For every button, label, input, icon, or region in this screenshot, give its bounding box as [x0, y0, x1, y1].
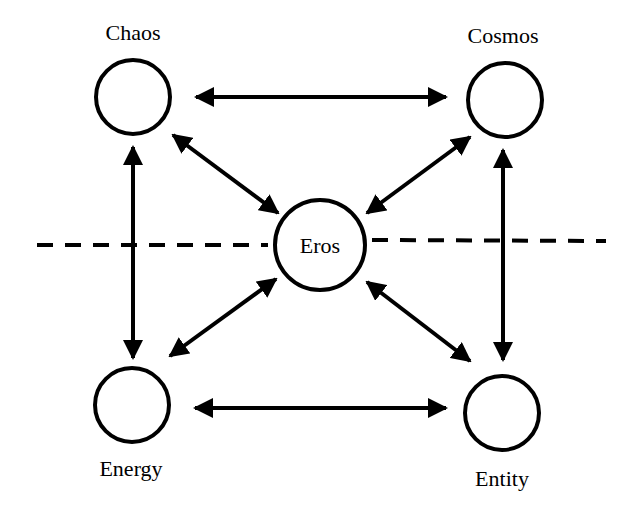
arrow-entity-eros [367, 282, 470, 361]
label-eros: Eros [300, 233, 340, 258]
label-energy: Energy [99, 456, 162, 481]
divider-right [372, 240, 606, 241]
label-entity: Entity [475, 466, 529, 491]
node-energy [95, 368, 169, 442]
eros-diagram: Chaos Cosmos Eros Energy Entity [0, 0, 634, 515]
node-chaos [96, 60, 170, 134]
node-cosmos [468, 63, 542, 137]
arrow-cosmos-eros [367, 137, 470, 213]
label-cosmos: Cosmos [468, 23, 539, 48]
arrow-energy-eros [170, 279, 276, 356]
arrow-chaos-eros [173, 135, 278, 213]
label-chaos: Chaos [106, 20, 161, 45]
node-entity [465, 376, 539, 450]
